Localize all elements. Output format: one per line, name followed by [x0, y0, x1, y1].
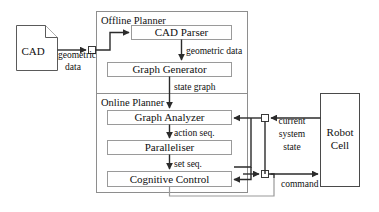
- box-label-robot-cell-line2: Cell: [331, 139, 349, 151]
- document-label: CAD: [21, 45, 44, 57]
- edge-label-geometric-data-source-line1: geometric: [58, 50, 96, 60]
- junction-node-state: [262, 115, 269, 122]
- edge-label-current-system-state-line3: state: [283, 142, 300, 152]
- edge-label-action-seq: action seq.: [174, 128, 215, 138]
- edge-command-junction-feed: [271, 174, 275, 178]
- edge-label-state-graph: state graph: [174, 82, 216, 92]
- edge-label-geometric-data: geometric data: [186, 46, 243, 56]
- edge-junction-to-cad-parser: [96, 33, 130, 51]
- document-fold-icon: [46, 26, 58, 38]
- box-label-cognitive-control: Cognitive Control: [130, 173, 210, 185]
- edge-label-current-system-state-line1: current: [279, 116, 306, 126]
- box-label-paralleliser: Paralleliser: [145, 141, 195, 153]
- box-label-cad-parser: CAD Parser: [155, 26, 209, 38]
- box-label-robot-cell-line1: Robot: [327, 126, 354, 138]
- edge-state-branch-left-arrow: [234, 167, 251, 180]
- box-label-graph-analyzer: Graph Analyzer: [135, 111, 205, 123]
- section-label-online: Online Planner: [101, 97, 165, 108]
- box-label-graph-generator: Graph Generator: [132, 63, 207, 75]
- diagram-canvas: Offline Planner Online Planner CAD CAD P…: [0, 0, 379, 212]
- section-label-offline: Offline Planner: [101, 15, 166, 26]
- architecture-diagram: Offline Planner Online Planner CAD CAD P…: [0, 0, 379, 212]
- edge-label-set-seq: set seq.: [174, 159, 202, 169]
- edge-state-branch-left: [234, 118, 251, 167]
- edge-label-geometric-data-source-line2: data: [65, 62, 82, 72]
- edge-label-current-system-state-line2: system: [279, 129, 306, 139]
- edge-label-command: command: [281, 179, 319, 189]
